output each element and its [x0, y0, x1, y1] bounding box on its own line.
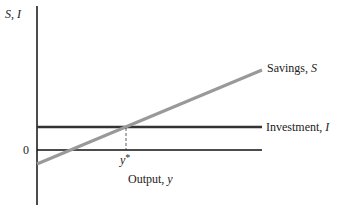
y-axis-label: S, I	[5, 7, 22, 21]
investment-label: Investment, I	[266, 120, 330, 134]
savings-investment-diagram: S, I 0 y* Output, y Savings, S Investmen…	[0, 0, 343, 216]
equilibrium-label: y*	[119, 152, 130, 167]
origin-label: 0	[23, 143, 29, 157]
x-axis-label: Output, y	[128, 172, 173, 186]
savings-label: Savings, S	[267, 61, 317, 75]
